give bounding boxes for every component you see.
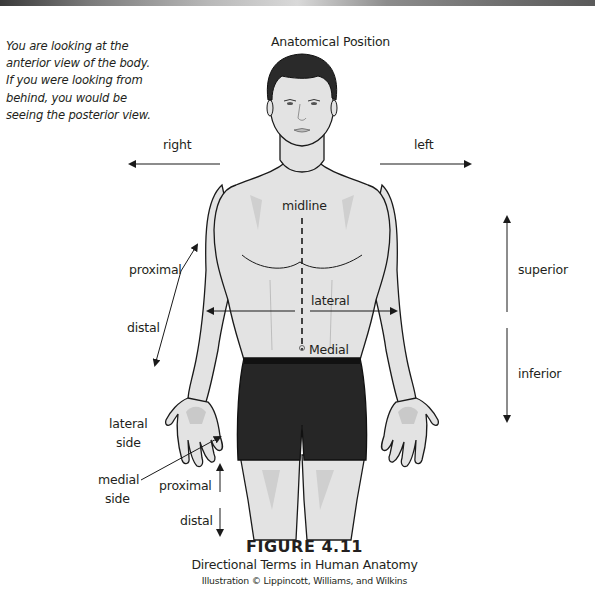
figure-title: Directional Terms in Human Anatomy <box>0 557 595 572</box>
label-proximal-arm: proximal <box>129 262 182 277</box>
legs <box>240 455 365 540</box>
label-lateral-side-1: lateral <box>109 416 148 431</box>
label-distal-leg: distal <box>180 513 213 528</box>
figure-credit: Illustration © Lippincott, Williams, and… <box>0 575 595 586</box>
label-lateral-side-2: side <box>116 435 141 450</box>
label-distal-arm: distal <box>127 320 160 335</box>
shorts <box>237 358 366 460</box>
label-proximal-leg: proximal <box>159 478 212 493</box>
label-superior: superior <box>518 262 568 277</box>
label-right: right <box>163 137 191 152</box>
label-midline: midline <box>282 198 327 213</box>
arm-proximal-arrow <box>181 245 197 271</box>
label-lateral: lateral <box>311 293 350 308</box>
label-medial-side-1: medial <box>98 472 139 487</box>
head <box>267 54 337 146</box>
figure-number: FIGURE 4.11 <box>0 537 595 556</box>
label-medial: Medial <box>309 342 349 357</box>
label-medial-side-2: side <box>105 491 130 506</box>
label-inferior: inferior <box>518 366 561 381</box>
body-illustration <box>0 0 595 594</box>
label-left: left <box>414 137 433 152</box>
arm-distal-arrow <box>155 271 181 365</box>
